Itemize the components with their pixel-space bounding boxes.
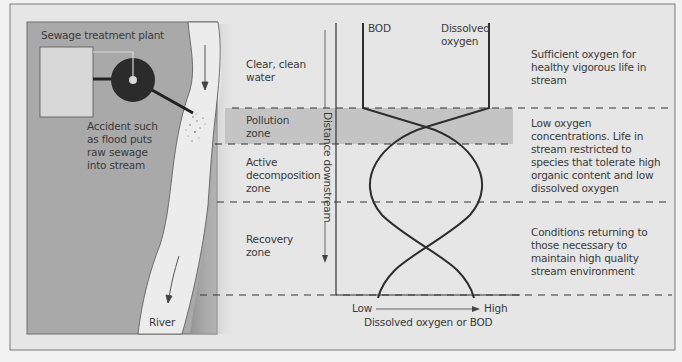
plant-label: Sewage treatment plant (41, 29, 164, 42)
sag-curve-diagram: Sewage treatment plant Accident such as … (0, 0, 682, 362)
tank-center (129, 76, 137, 84)
recovery-description: Conditions returning to those necessary … (531, 226, 648, 278)
zone-recovery-label: Recovery zone (246, 233, 293, 259)
pollution-description: Low oxygen concentrations. Life in strea… (531, 117, 661, 195)
zone-active-decomposition-label: Active decomposition zone (246, 156, 321, 195)
x-axis-title: Dissolved oxygen or BOD (364, 316, 492, 329)
accident-label: Accident such as flood puts raw sewage i… (87, 120, 158, 172)
x-axis-high-label: High (484, 302, 507, 315)
x-axis-low-label: Low (352, 302, 372, 315)
river-label: River (149, 316, 175, 329)
treatment-plant-building (40, 47, 93, 117)
bod-label: BOD (368, 22, 391, 35)
zone-pollution-label: Pollution zone (246, 114, 289, 140)
dissolved-oxygen-label: Dissolved oxygen (441, 22, 490, 48)
clear-water-description: Sufficient oxygen for healthy vigorous l… (531, 48, 646, 87)
zone-clear-water-label: Clear, clean water (246, 58, 306, 84)
distance-downstream-label: Distance downstream (322, 112, 334, 223)
